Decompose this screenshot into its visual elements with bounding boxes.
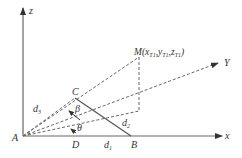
theta-arrow — [71, 129, 76, 133]
x-axis-label: x — [224, 130, 230, 141]
y-axis-label: Y — [224, 57, 231, 68]
coordinate-diagram: z x Y A C D B M(xT1,yT1,zT1) d3 d1 d2 β … — [0, 0, 242, 158]
point-a-label: A — [11, 132, 19, 143]
distance-d3-label: d3 — [33, 103, 41, 115]
point-m-label: M(xT1,yT1,zT1) — [133, 47, 184, 58]
angle-beta-label: β — [74, 103, 80, 114]
point-d-label: D — [71, 139, 80, 150]
distance-d1-label: d1 — [104, 139, 112, 151]
point-b-label: B — [131, 139, 137, 150]
y-axis — [23, 63, 218, 136]
angle-theta-label: θ — [77, 122, 82, 133]
point-c-label: C — [72, 86, 79, 97]
distance-d2-label: d2 — [122, 117, 130, 129]
z-axis-label: z — [28, 5, 33, 16]
